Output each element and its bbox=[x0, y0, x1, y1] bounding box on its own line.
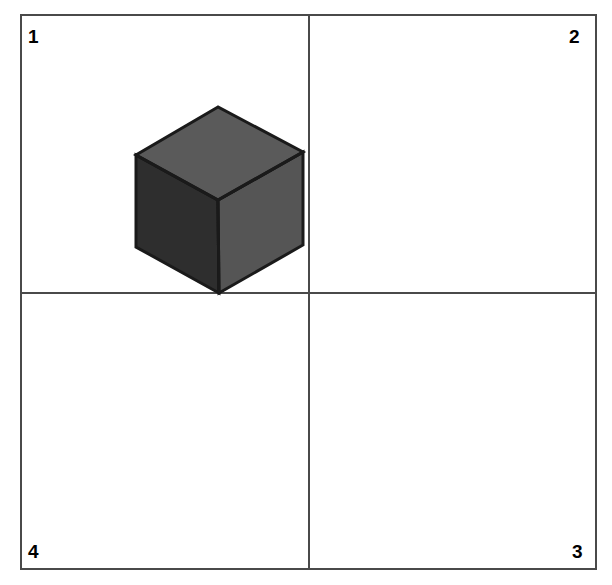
quadrant-label-3: 3 bbox=[572, 542, 583, 561]
quadrant-label-1: 1 bbox=[28, 27, 39, 46]
quadrant-label-2: 2 bbox=[569, 27, 580, 46]
horizontal-divider bbox=[20, 292, 597, 294]
quadrant-label-4: 4 bbox=[28, 542, 39, 561]
quadrant-canvas: 1 2 3 4 bbox=[0, 0, 612, 585]
